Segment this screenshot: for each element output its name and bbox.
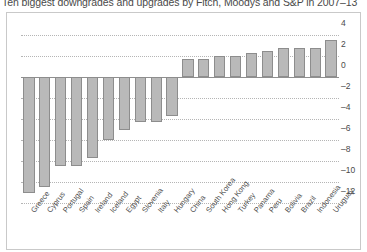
bar (135, 77, 146, 122)
gridline (21, 119, 339, 120)
bar (278, 48, 289, 77)
bar (325, 40, 336, 77)
bar (71, 77, 82, 166)
gridline (21, 98, 339, 99)
bar (214, 56, 225, 77)
plot-area (21, 35, 339, 203)
bar (246, 53, 257, 77)
bar (55, 77, 66, 166)
bar (198, 59, 209, 77)
gridline (21, 161, 339, 162)
bar (23, 77, 34, 193)
bar (151, 77, 162, 122)
y-axis-tick-label: –12 (341, 186, 367, 196)
bar (119, 77, 130, 130)
y-axis-tick-label: –4 (341, 102, 367, 112)
x-axis-labels: GreeceCyprusPortugalSpainIrelandIcelandE… (21, 207, 339, 252)
bar (87, 77, 98, 158)
y-axis-tick-label: 2 (341, 39, 367, 49)
zero-baseline (21, 77, 339, 78)
bar (294, 48, 305, 77)
bar (230, 56, 241, 77)
bar (103, 77, 114, 140)
page-title: Ten biggest downgrades and upgrades by F… (2, 0, 365, 8)
gridline (21, 182, 339, 183)
gridline (21, 140, 339, 141)
bar (39, 77, 50, 187)
y-axis-tick-label: 4 (341, 18, 367, 28)
gridline (21, 56, 339, 57)
bar (182, 59, 193, 77)
chart-frame: GreeceCyprusPortugalSpainIrelandIcelandE… (6, 12, 361, 250)
gridline (21, 35, 339, 36)
bar (166, 77, 177, 116)
y-axis-tick-label: –2 (341, 81, 367, 91)
y-axis-tick-label: –8 (341, 144, 367, 154)
y-axis-tick-label: –10 (341, 165, 367, 175)
y-axis-tick-label: 0 (341, 60, 367, 70)
bar (262, 51, 273, 77)
y-axis-tick-label: –6 (341, 123, 367, 133)
bar (310, 48, 321, 77)
